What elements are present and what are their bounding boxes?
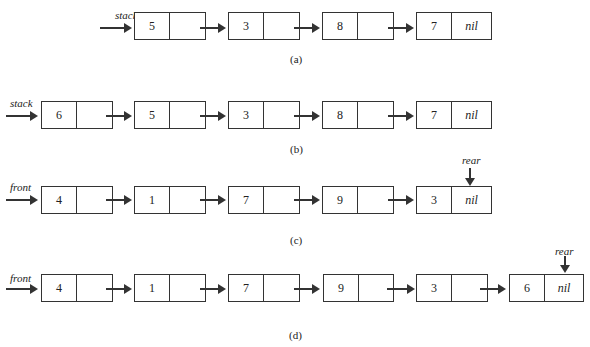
arrow-icon — [387, 288, 413, 290]
caption-c: (c) — [290, 234, 302, 246]
arrow-icon — [200, 288, 224, 290]
list-node: 5 — [134, 12, 206, 40]
node-value: 7 — [417, 13, 452, 39]
list-node: 5 — [134, 101, 206, 129]
arrow-icon — [106, 199, 130, 201]
node-value: 5 — [135, 13, 170, 39]
list-node: 9 — [322, 186, 394, 214]
arrow-icon — [106, 288, 130, 290]
front-label: front — [10, 272, 31, 284]
arrow-icon — [294, 288, 318, 290]
arrow-icon — [6, 199, 36, 201]
arrow-icon — [294, 27, 318, 29]
node-value: 8 — [323, 102, 358, 128]
list-node: 8 — [322, 12, 394, 40]
node-value: 4 — [42, 187, 77, 213]
arrow-icon — [388, 199, 412, 201]
node-next: nil — [452, 102, 491, 128]
arrow-down-icon — [469, 168, 471, 183]
front-label: front — [10, 181, 31, 193]
list-node: 4 — [41, 186, 113, 214]
caption-a: (a) — [290, 53, 302, 65]
node-next: nil — [452, 187, 491, 213]
node-value: 4 — [42, 275, 77, 301]
node-value: 1 — [135, 275, 170, 301]
node-value: 6 — [42, 102, 77, 128]
list-node: 3 nil — [416, 186, 492, 214]
arrow-icon — [294, 115, 318, 117]
list-node: 3 — [416, 274, 488, 302]
list-node: 8 — [322, 101, 394, 129]
arrow-icon — [200, 199, 224, 201]
list-node: 6 nil — [509, 274, 584, 302]
list-node: 9 — [323, 274, 394, 302]
node-value: 1 — [135, 187, 170, 213]
list-node: 1 — [134, 274, 206, 302]
node-next — [358, 13, 393, 39]
list-node: 7 — [228, 186, 300, 214]
arrow-icon — [200, 27, 224, 29]
arrow-icon — [106, 115, 130, 117]
node-next — [170, 13, 205, 39]
node-value: 5 — [135, 102, 170, 128]
node-value: 7 — [417, 102, 452, 128]
arrow-icon — [388, 27, 412, 29]
node-value: 9 — [323, 187, 358, 213]
arrow-down-icon — [564, 256, 566, 270]
node-value: 7 — [229, 275, 264, 301]
node-value: 7 — [229, 187, 264, 213]
node-value: 8 — [323, 13, 358, 39]
diagram-b: stack 6 5 3 8 7 nil (b) — [0, 88, 590, 148]
node-value: 3 — [229, 13, 264, 39]
arrow-icon — [480, 288, 504, 290]
diagram-c: front 4 1 7 9 3 nil rear (c) — [0, 160, 590, 220]
node-value: 3 — [417, 275, 452, 301]
rear-label: rear — [462, 154, 481, 166]
arrow-icon — [6, 288, 36, 290]
stack-label: stack — [10, 97, 33, 109]
arrow-icon — [6, 115, 36, 117]
node-next: nil — [545, 275, 583, 301]
list-node: 3 — [228, 101, 300, 129]
caption-d: (d) — [289, 329, 302, 341]
caption-b: (b) — [290, 143, 303, 155]
list-node: 7 — [228, 274, 300, 302]
arrow-icon — [100, 27, 130, 29]
node-next: nil — [452, 13, 491, 39]
diagram-a: stack 5 3 8 7 nil (a) — [0, 0, 590, 60]
list-node: 7 nil — [416, 101, 492, 129]
node-value: 3 — [417, 187, 452, 213]
list-node: 6 — [41, 101, 113, 129]
diagram-d: front 4 1 7 9 3 6 nil rear (d) — [0, 250, 590, 310]
arrow-icon — [294, 199, 318, 201]
node-value: 9 — [324, 275, 359, 301]
node-next — [264, 13, 299, 39]
node-value: 6 — [510, 275, 545, 301]
arrow-icon — [388, 115, 412, 117]
list-node: 1 — [134, 186, 206, 214]
node-value: 3 — [229, 102, 264, 128]
list-node: 7 nil — [416, 12, 492, 40]
arrow-icon — [200, 115, 224, 117]
list-node: 4 — [41, 274, 113, 302]
list-node: 3 — [228, 12, 300, 40]
